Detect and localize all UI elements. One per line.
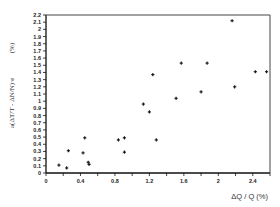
data-point (230, 19, 233, 22)
x-tick-label: 1.6 (180, 178, 188, 184)
data-point (206, 62, 209, 65)
x-axis: 00.40.81.21.622.4 (44, 173, 270, 184)
data-point (180, 62, 183, 65)
scatter-chart: 00.10.20.30.40.50.60.70.80.911.11.21.31.… (0, 0, 280, 207)
data-point (151, 73, 154, 76)
data-point (265, 70, 268, 73)
y-axis: 00.10.20.30.40.50.60.70.80.911.11.21.31.… (33, 12, 46, 176)
y-tick-label: 1.1 (33, 91, 41, 97)
x-tick-label: 1.2 (146, 178, 154, 184)
data-point (83, 136, 86, 139)
y-axis-title: a(ΔT/T - ΔN/N)·e (8, 78, 16, 128)
data-point (155, 138, 158, 141)
y-tick-label: 1.9 (33, 34, 41, 40)
y-tick-label: 2.1 (33, 19, 41, 25)
y-tick-label: 0.6 (33, 127, 41, 133)
data-points (57, 19, 268, 169)
x-tick-label: 2.4 (249, 178, 258, 184)
data-point (65, 166, 68, 169)
x-axis-title: ΔQ / Q (%) (231, 192, 268, 201)
data-point (123, 136, 126, 139)
y-tick-label: 1.2 (33, 84, 41, 90)
plot-frame (46, 15, 270, 173)
y-tick-label: 0.3 (33, 148, 41, 154)
data-point (199, 90, 202, 93)
y-tick-label: 1.5 (33, 62, 41, 68)
y-tick-label: 1.7 (33, 48, 41, 54)
data-point (233, 85, 236, 88)
y-tick-label: 1.3 (33, 77, 41, 83)
x-tick-label: 0 (44, 178, 47, 184)
x-tick-label: 0.8 (111, 178, 119, 184)
data-point (174, 97, 177, 100)
y-tick-label: 1.8 (33, 41, 41, 47)
data-point (57, 164, 60, 167)
data-point (81, 151, 84, 154)
y-axis-unit: (%) (8, 42, 16, 53)
data-point (142, 102, 145, 105)
y-tick-label: 0.2 (33, 156, 41, 162)
data-point (123, 151, 126, 154)
y-tick-label: 0.9 (33, 105, 41, 111)
y-tick-label: 1.4 (33, 69, 42, 75)
data-point (148, 110, 151, 113)
y-tick-label: 0.1 (33, 163, 41, 169)
y-tick-label: 0 (38, 170, 41, 176)
x-tick-label: 2 (217, 178, 220, 184)
y-tick-label: 0.5 (33, 134, 41, 140)
data-point (254, 70, 257, 73)
y-tick-label: 1 (38, 98, 41, 104)
x-tick-label: 0.4 (77, 178, 86, 184)
data-point (117, 138, 120, 141)
y-tick-label: 2 (38, 26, 41, 32)
y-tick-label: 0.4 (33, 141, 42, 147)
y-tick-label: 1.6 (33, 55, 41, 61)
y-tick-label: 2.2 (33, 12, 41, 18)
y-tick-label: 0.8 (33, 113, 41, 119)
data-point (67, 149, 70, 152)
y-tick-label: 0.7 (33, 120, 41, 126)
